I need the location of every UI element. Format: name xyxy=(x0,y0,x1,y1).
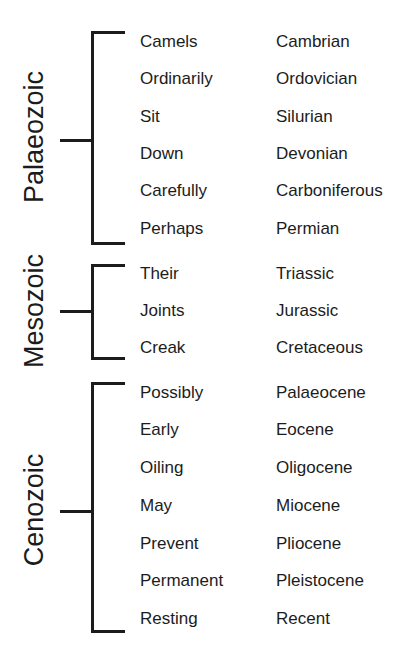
geologic-period: Jurassic xyxy=(276,299,338,323)
mnemonic-word: Joints xyxy=(140,299,184,323)
table-row: Resting Recent xyxy=(0,607,418,631)
mnemonic-word: Camels xyxy=(140,30,198,54)
geologic-period: Eocene xyxy=(276,418,334,442)
table-row: Perhaps Permian xyxy=(0,217,418,241)
geologic-period: Devonian xyxy=(276,142,348,166)
geologic-period: Recent xyxy=(276,607,330,631)
table-row: Early Eocene xyxy=(0,418,418,442)
table-row: Sit Silurian xyxy=(0,105,418,129)
table-row: Joints Jurassic xyxy=(0,299,418,323)
geologic-period: Permian xyxy=(276,217,339,241)
geologic-period: Palaeocene xyxy=(276,381,366,405)
table-row: May Miocene xyxy=(0,494,418,518)
table-row: Creak Cretaceous xyxy=(0,336,418,360)
geologic-period: Triassic xyxy=(276,262,334,286)
geologic-period: Ordovician xyxy=(276,67,357,91)
mnemonic-word: May xyxy=(140,494,172,518)
mnemonic-word: Oiling xyxy=(140,456,183,480)
mnemonic-word: Sit xyxy=(140,105,160,129)
geologic-period: Miocene xyxy=(276,494,340,518)
bracket-line-palaeozoic xyxy=(91,31,94,245)
mnemonic-word: Carefully xyxy=(140,179,207,203)
table-row: Possibly Palaeocene xyxy=(0,381,418,405)
mnemonic-word: Creak xyxy=(140,336,185,360)
geologic-period: Silurian xyxy=(276,105,333,129)
table-row: Oiling Oligocene xyxy=(0,456,418,480)
geologic-period: Pleistocene xyxy=(276,569,364,593)
mnemonic-word: Possibly xyxy=(140,381,203,405)
mnemonic-word: Prevent xyxy=(140,532,199,556)
mnemonic-word: Perhaps xyxy=(140,217,203,241)
table-row: Permanent Pleistocene xyxy=(0,569,418,593)
geologic-period: Carboniferous xyxy=(276,179,383,203)
table-row: Down Devonian xyxy=(0,142,418,166)
table-row: Their Triassic xyxy=(0,262,418,286)
table-row: Ordinarily Ordovician xyxy=(0,67,418,91)
bracket-bottom-arm-palaeozoic xyxy=(91,242,125,245)
table-row: Prevent Pliocene xyxy=(0,532,418,556)
table-row: Carefully Carboniferous xyxy=(0,179,418,203)
mnemonic-word: Resting xyxy=(140,607,198,631)
mnemonic-word: Down xyxy=(140,142,183,166)
geologic-period: Cretaceous xyxy=(276,336,363,360)
geologic-period: Oligocene xyxy=(276,456,353,480)
geologic-period: Pliocene xyxy=(276,532,341,556)
table-row: Camels Cambrian xyxy=(0,30,418,54)
mnemonic-word: Early xyxy=(140,418,179,442)
mnemonic-word: Permanent xyxy=(140,569,223,593)
mnemonic-word: Their xyxy=(140,262,179,286)
mnemonic-word: Ordinarily xyxy=(140,67,213,91)
geologic-period: Cambrian xyxy=(276,30,350,54)
